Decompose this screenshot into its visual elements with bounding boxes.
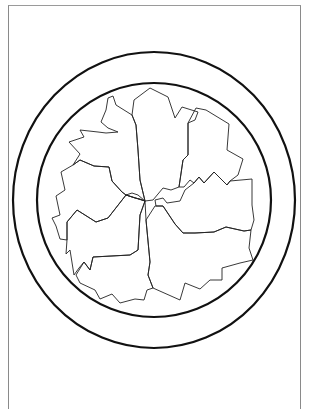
puzzle-piece-left	[66, 193, 145, 275]
outer-ring	[13, 52, 295, 348]
puzzle-pieces	[52, 88, 254, 303]
inner-ring	[37, 83, 271, 317]
puzzle-piece-right	[155, 172, 254, 233]
puzzle-piece-bottom-right	[146, 206, 253, 300]
puzzle-piece-top-left	[69, 96, 145, 201]
puzzle-piece-upper-left	[52, 160, 145, 240]
